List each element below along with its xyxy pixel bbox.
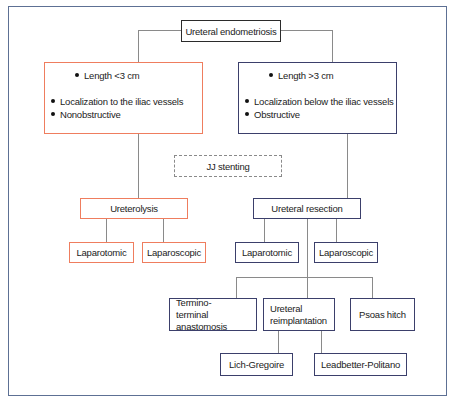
ureterolysis-node: Ureterolysis xyxy=(80,198,188,219)
connector xyxy=(347,134,348,198)
ureteral-reimplantation-node: Ureteral reimplantation xyxy=(263,298,335,331)
bullet-icon xyxy=(51,99,55,103)
connector xyxy=(236,277,372,278)
right-laparoscopic-node: Laparoscopic xyxy=(314,242,378,263)
bullet-icon xyxy=(245,112,249,116)
connector xyxy=(321,331,322,353)
left-laparotomic-node: Laparotomic xyxy=(69,242,134,263)
leadbetter-politano-node: Leadbetter-Politano xyxy=(314,353,407,376)
connector xyxy=(138,30,139,62)
criterion-item: Localization below the iliac vessels xyxy=(245,96,394,107)
left-criteria-node: Length <3 cm Localization to the iliac v… xyxy=(44,62,203,134)
ureteral-resection-node: Ureteral resection xyxy=(253,198,361,219)
bullet-icon xyxy=(51,112,55,116)
connector xyxy=(372,277,373,298)
root-label: Ureteral endometriosis xyxy=(185,26,276,37)
bullet-icon xyxy=(269,73,273,77)
connector xyxy=(106,219,107,242)
left-laparoscopic-node: Laparoscopic xyxy=(142,242,206,263)
connector xyxy=(332,30,333,62)
jj-stenting-label: JJ stenting xyxy=(206,161,249,172)
criterion-item: Length <3 cm xyxy=(75,70,139,81)
connector xyxy=(336,219,337,242)
bullet-icon xyxy=(245,99,249,103)
jj-stenting-node: JJ stenting xyxy=(174,155,282,177)
right-laparotomic-node: Laparotomic xyxy=(235,242,299,263)
lich-gregoire-node: Lich-Gregoire xyxy=(220,353,293,376)
connector xyxy=(138,134,139,198)
criterion-item: Length >3 cm xyxy=(269,70,333,81)
connector xyxy=(264,219,265,242)
connector xyxy=(281,30,333,31)
connector xyxy=(307,219,308,277)
right-criteria-node: Length >3 cm Localization below the ilia… xyxy=(238,62,397,134)
connector xyxy=(307,277,308,298)
criterion-item: Localization to the iliac vessels xyxy=(51,96,183,107)
connector xyxy=(138,30,181,31)
connector xyxy=(236,277,237,298)
criterion-item: Nonobstructive xyxy=(51,109,121,120)
bullet-icon xyxy=(75,73,79,77)
psoas-hitch-node: Psoas hitch xyxy=(350,298,415,331)
criterion-item: Obstructive xyxy=(245,109,300,120)
connector xyxy=(163,219,164,242)
connector xyxy=(278,331,279,353)
root-node: Ureteral endometriosis xyxy=(181,20,281,42)
termino-terminal-node: Termino-terminal anastomosis xyxy=(169,298,257,331)
